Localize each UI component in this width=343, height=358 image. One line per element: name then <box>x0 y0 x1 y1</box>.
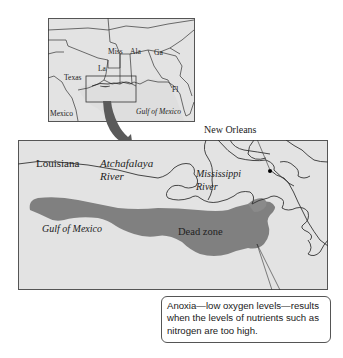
inset-label-gulf: Gulf of Mexico <box>136 108 181 116</box>
inset-map: Texas La Miss Ala Ga Fl Mexico Gulf of M… <box>48 18 195 122</box>
main-label-gulf: Gulf of Mexico <box>42 224 102 234</box>
inset-label-la: La <box>98 65 106 73</box>
label-new-orleans: New Orleans <box>204 125 256 135</box>
inset-label-ala: Ala <box>130 48 141 56</box>
main-label-louisiana: Louisiana <box>36 158 79 169</box>
inset-label-ga: Ga <box>154 49 163 57</box>
main-map: Louisiana Atchafalaya River Mississippi … <box>18 140 328 290</box>
main-label-mississippi-2: River <box>196 182 218 192</box>
inset-label-mexico: Mexico <box>50 110 73 118</box>
inset-label-miss: Miss <box>108 48 123 56</box>
main-label-dead-zone: Dead zone <box>178 227 223 238</box>
anoxia-callout: Anoxia—low oxygen levels—results when th… <box>161 296 331 343</box>
main-label-atchafalaya-2: River <box>100 171 124 182</box>
inset-label-fl: Fl <box>172 86 178 94</box>
main-label-atchafalaya-1: Atchafalaya <box>100 158 153 169</box>
callout-text: Anoxia—low oxygen levels—results when th… <box>167 300 319 336</box>
inset-label-texas: Texas <box>64 74 81 82</box>
main-label-mississippi-1: Mississippi <box>196 169 241 179</box>
